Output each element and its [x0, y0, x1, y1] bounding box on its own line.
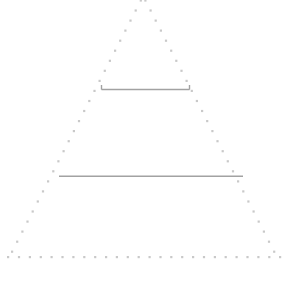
pyramid-base-edge — [7, 256, 281, 258]
upper-divider-line — [102, 85, 190, 90]
pyramid-diagram — [0, 0, 287, 289]
pyramid-right-edge — [144, 0, 275, 253]
clipped-caption — [0, 277, 287, 289]
pyramid-diagram-canvas — [0, 0, 287, 289]
pyramid-left-edge — [11, 0, 142, 253]
